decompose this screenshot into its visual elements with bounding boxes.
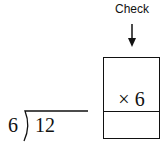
dividend: 12 [35,114,55,137]
down-arrow-icon [126,24,138,48]
check-box: × 6 [103,57,160,139]
division-bracket-icon [22,110,92,144]
box-divider [104,111,159,112]
multiply-text: × 6 [104,88,159,111]
divisor: 6 [8,114,18,137]
check-label: Check [112,2,152,16]
